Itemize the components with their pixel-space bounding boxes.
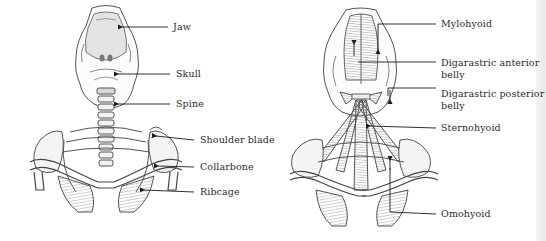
- label-skull: Skull: [176, 68, 201, 80]
- label-digastric-posterior: Digarastric posterior belly: [441, 88, 544, 112]
- label-omohyoid: Omohyoid: [441, 208, 491, 220]
- label-collarbone: Collarbone: [200, 161, 254, 173]
- skeleton-figure: [30, 6, 194, 213]
- label-mylohyoid: Mylohyoid: [441, 18, 492, 30]
- label-ribcage: Ribcage: [200, 186, 240, 198]
- label-digastric-posterior-line2: belly: [441, 100, 544, 112]
- neck-muscles-drawing: [318, 100, 404, 190]
- anatomy-illustration: [0, 0, 546, 241]
- label-jaw: Jaw: [173, 21, 191, 33]
- label-shoulder-blade: Shoulder blade: [200, 134, 275, 146]
- label-digastric-anterior-line2: belly: [441, 69, 539, 81]
- label-digastric-anterior: Digarastric anterior belly: [441, 57, 539, 81]
- label-sternohyoid: Sternohyoid: [441, 122, 501, 134]
- muscles-figure: [290, 8, 438, 226]
- label-digastric-anterior-line1: Digarastric anterior: [441, 57, 539, 68]
- label-spine: Spine: [176, 98, 204, 110]
- label-digastric-posterior-line1: Digarastric posterior: [441, 88, 544, 99]
